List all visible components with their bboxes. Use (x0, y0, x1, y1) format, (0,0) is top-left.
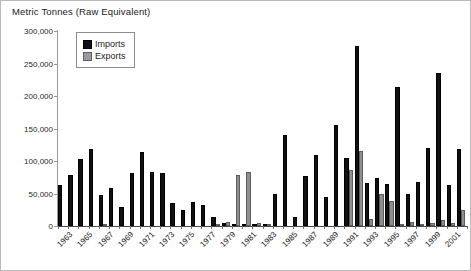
legend-swatch-imports-icon (83, 40, 92, 49)
x-axis-tick-mark (68, 226, 69, 229)
x-axis-tick-mark (303, 226, 304, 229)
x-axis-tick-label: 1969 (116, 230, 135, 249)
bar-imports-2001 (447, 185, 451, 226)
x-axis-tick-mark (150, 226, 151, 229)
x-axis-tick-mark (283, 226, 284, 229)
y-axis-tick-mark (54, 129, 58, 130)
x-axis-tick-mark (89, 226, 90, 229)
bar-imports-1996 (395, 87, 399, 226)
x-axis-tick-label: 1999 (423, 230, 442, 249)
x-axis-tick-label: 1983 (260, 230, 279, 249)
x-axis-tick-mark (293, 226, 294, 229)
bar-imports-1998 (416, 182, 420, 226)
x-axis-tick-label: 1967 (96, 230, 115, 249)
y-axis-tick-mark (54, 31, 58, 32)
y-axis-tick-label: 200,000 (24, 92, 53, 101)
y-axis-tick-mark (54, 161, 58, 162)
y-axis-tick-mark (54, 64, 58, 65)
y-axis-tick-label: 0 (49, 222, 53, 231)
x-axis-tick-mark (242, 226, 243, 229)
x-axis-tick-label: 1971 (137, 230, 156, 249)
bar-exports-1967 (103, 224, 107, 226)
bar-imports-1989 (324, 197, 328, 226)
x-axis-tick-mark (436, 226, 437, 229)
x-axis-tick-mark (395, 226, 396, 229)
bar-imports-2000 (436, 73, 440, 226)
x-axis-tick-mark (457, 226, 458, 229)
y-axis-tick-labels: 050,000100,000150,000200,000250,000300,0… (1, 1, 53, 271)
x-axis-tick-label: 1997 (403, 230, 422, 249)
legend-label-exports: Exports (95, 51, 126, 61)
x-axis-tick-mark (324, 226, 325, 229)
legend-item-exports: Exports (83, 51, 126, 61)
x-axis-tick-label: 1989 (321, 230, 340, 249)
bar-imports-1969 (119, 207, 123, 227)
bar-imports-1965 (78, 159, 82, 226)
bar-exports-1999 (430, 223, 434, 226)
x-axis-tick-mark (273, 226, 274, 229)
bar-imports-1988 (314, 155, 318, 227)
x-axis-tick-label: 1991 (341, 230, 360, 249)
bar-imports-1967 (99, 195, 103, 226)
x-axis-tick-mark (344, 226, 345, 229)
y-axis-tick-label: 250,000 (24, 59, 53, 68)
x-axis-tick-mark (191, 226, 192, 229)
y-axis-tick-label: 150,000 (24, 124, 53, 133)
bar-imports-1976 (191, 202, 195, 226)
x-axis-tick-mark (211, 226, 212, 229)
x-axis-tick-mark (109, 226, 110, 229)
bar-imports-1972 (150, 172, 154, 226)
x-axis-tick-mark (130, 226, 131, 229)
bar-exports-2001 (451, 223, 455, 226)
x-axis-tick-label: 1963 (55, 230, 74, 249)
x-axis-tick-label: 1965 (76, 230, 95, 249)
y-axis-tick-mark (54, 96, 58, 97)
x-axis-tick-mark (365, 226, 366, 229)
x-axis-tick-mark (160, 226, 161, 229)
x-axis-tick-label: 1975 (178, 230, 197, 249)
bar-exports-2000 (441, 220, 445, 226)
x-axis-tick-mark (170, 226, 171, 229)
bar-exports-1992 (359, 151, 363, 226)
bar-imports-1990 (334, 125, 338, 226)
bar-exports-1993 (369, 219, 373, 226)
bar-exports-1981 (246, 172, 250, 226)
bar-imports-1984 (273, 194, 277, 226)
x-axis-tick-mark (467, 226, 468, 229)
legend-swatch-exports-icon (83, 52, 92, 61)
legend-label-imports: Imports (95, 39, 125, 49)
x-axis-tick-mark (119, 226, 120, 229)
bar-imports-1999 (426, 148, 430, 226)
bar-imports-1985 (283, 135, 287, 226)
bar-imports-1966 (89, 149, 93, 226)
bar-exports-2002 (461, 210, 465, 226)
bar-exports-1983 (267, 224, 271, 226)
x-axis-tick-mark (99, 226, 100, 229)
x-axis-tick-label: 1973 (157, 230, 176, 249)
bar-imports-1971 (140, 152, 144, 226)
legend-item-imports: Imports (83, 39, 126, 49)
bar-exports-1978 (216, 224, 220, 226)
bar-imports-1974 (170, 203, 174, 226)
x-axis-tick-mark (375, 226, 376, 229)
bar-imports-1973 (160, 173, 164, 226)
y-axis-tick-label: 100,000 (24, 157, 53, 166)
x-axis-tick-label: 1985 (280, 230, 299, 249)
x-axis-tick-mark (232, 226, 233, 229)
y-axis-tick-label: 300,000 (24, 27, 53, 36)
x-axis-tick-mark (78, 226, 79, 229)
bar-exports-1991 (349, 170, 353, 226)
x-axis-tick-mark (181, 226, 182, 229)
bar-exports-1995 (389, 201, 393, 226)
x-axis-tick-label: 1995 (382, 230, 401, 249)
bar-imports-1987 (303, 176, 307, 226)
bar-exports-1979 (226, 222, 230, 226)
bar-exports-1998 (420, 224, 424, 226)
bar-exports-1994 (379, 194, 383, 226)
x-axis-tick-mark (222, 226, 223, 229)
x-axis-tick-label: 1993 (362, 230, 381, 249)
bar-imports-1975 (181, 210, 185, 226)
x-axis-tick-mark (252, 226, 253, 229)
bar-exports-1996 (400, 224, 404, 226)
bar-imports-1968 (109, 188, 113, 226)
